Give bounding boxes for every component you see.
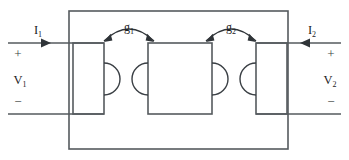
- coupling-label-g2: g2: [226, 20, 236, 36]
- coupling-label-g1: g1: [124, 20, 134, 36]
- coil-1-winding-arc: [104, 63, 120, 95]
- network-enclosure: [69, 11, 288, 149]
- coil-3-core: [256, 43, 287, 114]
- plus-sign-right: +: [327, 46, 334, 61]
- minus-sign-left: −: [14, 94, 21, 109]
- current-label-i2: I2: [308, 23, 316, 39]
- plus-sign-left: +: [14, 46, 21, 61]
- coil-2-core: [148, 43, 212, 114]
- coil-1-core: [73, 43, 104, 114]
- minus-sign-right: −: [327, 94, 334, 109]
- circuit-schematic-canvas: I1 + V1 − I2 + V2 − g1 g2: [0, 0, 349, 160]
- circuit-diagram: I1 + V1 − I2 + V2 − g1 g2: [0, 0, 349, 160]
- voltage-label-v2: V2: [323, 73, 336, 89]
- current-arrow-i2: [300, 39, 310, 48]
- coil-2-winding-arc-left: [132, 63, 148, 95]
- coil-2-winding-arc-right: [212, 63, 228, 95]
- voltage-label-v1: V1: [13, 73, 26, 89]
- current-arrow-i1: [41, 39, 51, 48]
- current-label-i1: I1: [34, 23, 42, 39]
- coil-3-winding-arc: [240, 63, 256, 95]
